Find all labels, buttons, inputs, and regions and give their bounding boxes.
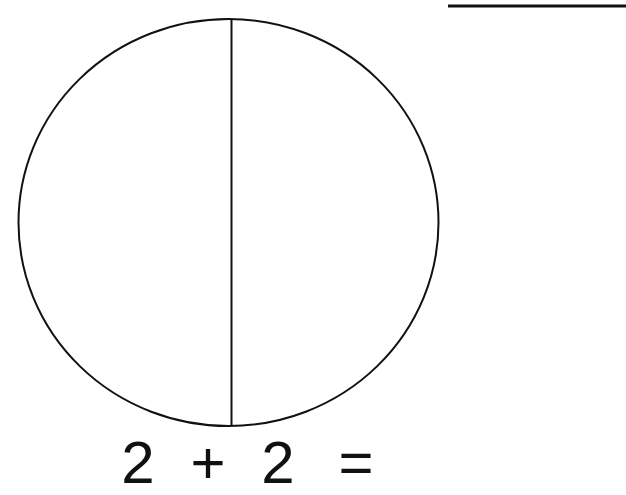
- equation-right-operand: 2: [250, 434, 306, 492]
- fraction-circle-outline: [19, 19, 439, 426]
- worksheet-page: 2 + 2 =: [0, 0, 626, 495]
- equation-row: 2 + 2 =: [110, 434, 410, 492]
- equation-left-operand: 2: [110, 434, 166, 492]
- equation-equals-sign: =: [328, 434, 384, 492]
- equation-plus-operator: +: [180, 434, 236, 492]
- worksheet-figure-canvas: [0, 0, 626, 495]
